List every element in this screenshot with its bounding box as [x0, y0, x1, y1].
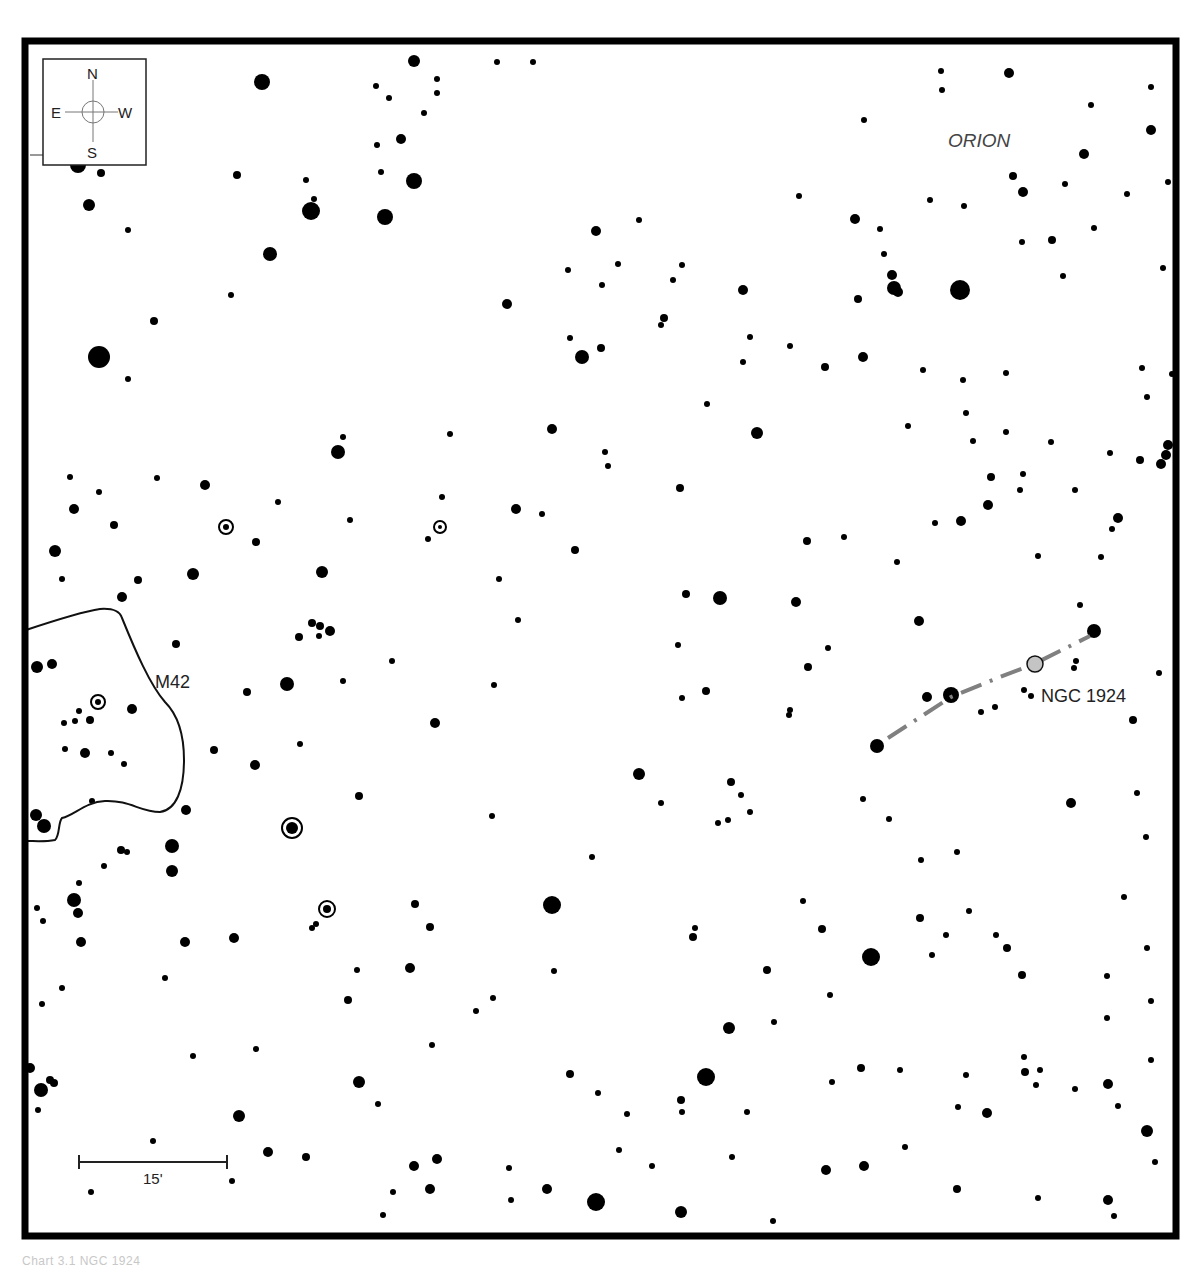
star — [955, 1104, 961, 1110]
star — [914, 616, 924, 626]
star — [243, 688, 251, 696]
star — [76, 708, 82, 714]
star — [1073, 658, 1079, 664]
star — [1021, 687, 1027, 693]
star — [430, 718, 440, 728]
star — [599, 282, 605, 288]
star — [870, 739, 884, 753]
ngc1924-target-marker[interactable] — [1027, 656, 1043, 672]
star-chart: M42 NGC 1924 ORION N S E W 15' — [0, 0, 1199, 1267]
star — [1148, 1057, 1154, 1063]
star — [679, 695, 685, 701]
star — [1003, 944, 1011, 952]
star — [117, 592, 127, 602]
star — [187, 568, 199, 580]
star — [1018, 971, 1026, 979]
star — [771, 1019, 777, 1025]
star — [636, 217, 642, 223]
star — [101, 863, 107, 869]
star — [308, 619, 316, 627]
star — [800, 898, 806, 904]
star — [1156, 459, 1166, 469]
star — [886, 816, 892, 822]
star — [76, 880, 82, 886]
star — [108, 750, 114, 756]
star — [787, 707, 793, 713]
star — [1060, 273, 1066, 279]
star — [821, 363, 829, 371]
star — [1035, 1195, 1041, 1201]
star — [747, 334, 753, 340]
star — [165, 839, 179, 853]
star — [571, 546, 579, 554]
star — [1048, 236, 1056, 244]
star — [1035, 553, 1041, 559]
star — [37, 819, 51, 833]
star — [80, 748, 90, 758]
stars-layer — [25, 55, 1175, 1224]
star — [857, 1064, 865, 1072]
star — [679, 1109, 685, 1115]
star — [803, 537, 811, 545]
star — [353, 1076, 365, 1088]
variable-stars-layer — [91, 520, 446, 917]
star — [373, 83, 379, 89]
star — [542, 1184, 552, 1194]
star — [125, 227, 131, 233]
star — [302, 1153, 310, 1161]
star — [396, 134, 406, 144]
star — [918, 857, 924, 863]
star — [30, 809, 42, 821]
star — [172, 640, 180, 648]
star — [677, 1096, 685, 1104]
star — [744, 1109, 750, 1115]
star — [275, 499, 281, 505]
star — [675, 642, 681, 648]
star — [210, 746, 218, 754]
star — [751, 427, 763, 439]
star — [841, 534, 847, 540]
star — [386, 95, 392, 101]
star — [1103, 1195, 1113, 1205]
figure-caption: Chart 3.1 NGC 1924 — [22, 1254, 140, 1267]
star — [31, 661, 43, 673]
star — [181, 805, 191, 815]
star — [960, 377, 966, 383]
star — [229, 1178, 235, 1184]
star — [432, 1154, 442, 1164]
star — [97, 169, 105, 177]
star — [506, 1165, 512, 1171]
star — [713, 591, 727, 605]
star — [88, 1189, 94, 1195]
star — [543, 896, 561, 914]
star — [233, 1110, 245, 1122]
star — [1144, 945, 1150, 951]
star — [1146, 125, 1156, 135]
star — [511, 504, 521, 514]
star — [1163, 440, 1173, 450]
star — [378, 169, 384, 175]
star — [738, 285, 748, 295]
star — [325, 626, 335, 636]
star — [489, 813, 495, 819]
star — [1017, 487, 1023, 493]
star — [1048, 439, 1054, 445]
star — [1072, 1086, 1078, 1092]
star — [150, 317, 158, 325]
star — [804, 663, 812, 671]
star — [263, 247, 277, 261]
star — [1021, 1068, 1029, 1076]
star — [280, 677, 294, 691]
star — [859, 1161, 869, 1171]
star — [897, 1067, 903, 1073]
star — [689, 933, 697, 941]
star — [953, 1185, 961, 1193]
star — [316, 622, 324, 630]
star — [1066, 798, 1076, 808]
star — [966, 908, 972, 914]
star — [725, 817, 731, 823]
star — [660, 314, 668, 322]
star — [1018, 187, 1028, 197]
star — [704, 401, 710, 407]
star — [62, 746, 68, 752]
